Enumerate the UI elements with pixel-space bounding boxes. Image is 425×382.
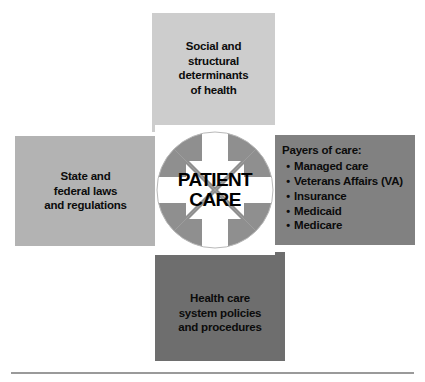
box-right-text: Payers of care: • Managed care • Veteran… xyxy=(282,143,403,233)
payers-item-label: Medicare xyxy=(294,218,342,233)
box-top-line-2: structural xyxy=(179,54,249,69)
payers-of-care-list: • Managed care • Veterans Affairs (VA) •… xyxy=(282,159,403,234)
list-item: • Veterans Affairs (VA) xyxy=(282,174,403,189)
center-label: PATIENT CARE xyxy=(155,125,275,255)
box-bottom-text: Health care system policies and procedur… xyxy=(178,291,261,335)
payers-item-label: Managed care xyxy=(294,159,368,174)
center-label-line-1: PATIENT xyxy=(178,170,252,190)
diagram-box-social-structural-determinants: Social and structural determinants of he… xyxy=(152,13,275,132)
bullet-icon: • xyxy=(282,159,294,173)
bullet-icon: • xyxy=(282,189,294,203)
payers-item-label: Veterans Affairs (VA) xyxy=(294,174,403,189)
bottom-divider-rule xyxy=(11,372,414,374)
box-left-text: State and federal laws and regulations xyxy=(44,169,127,213)
list-item: • Medicaid xyxy=(282,204,403,219)
box-bottom-line-2: system policies xyxy=(178,306,261,321)
box-top-line-1: Social and xyxy=(179,39,249,54)
list-item: • Insurance xyxy=(282,189,403,204)
box-top-line-4: of health xyxy=(179,83,249,98)
bullet-icon: • xyxy=(282,218,294,232)
payers-item-label: Insurance xyxy=(294,189,347,204)
box-top-line-3: determinants xyxy=(179,68,249,83)
bullet-icon: • xyxy=(282,174,294,188)
list-item: • Managed care xyxy=(282,159,403,174)
patient-care-diagram: Social and structural determinants of he… xyxy=(0,0,425,382)
bullet-icon: • xyxy=(282,204,294,218)
diagram-box-payers-of-care: Payers of care: • Managed care • Veteran… xyxy=(274,135,415,245)
diagram-box-health-care-system-policies: Health care system policies and procedur… xyxy=(155,252,285,361)
box-top-text: Social and structural determinants of he… xyxy=(179,39,249,98)
box-bottom-line-1: Health care xyxy=(178,291,261,306)
box-bottom-line-3: and procedures xyxy=(178,320,261,335)
diagram-box-state-federal-laws: State and federal laws and regulations xyxy=(15,136,156,246)
payers-item-label: Medicaid xyxy=(294,204,342,219)
payers-of-care-title: Payers of care: xyxy=(282,143,403,158)
center-label-line-2: CARE xyxy=(189,190,240,210)
box-left-line-2: federal laws xyxy=(44,184,127,199)
box-left-line-3: and regulations xyxy=(44,198,127,213)
box-left-line-1: State and xyxy=(44,169,127,184)
list-item: • Medicare xyxy=(282,218,403,233)
